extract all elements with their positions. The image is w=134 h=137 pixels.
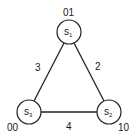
node-s3: s3 [17, 100, 41, 124]
node-s2: s2 [97, 100, 121, 124]
node-s3-code: 00 [7, 122, 19, 133]
edge-s1-s2-weight: 2 [95, 61, 101, 72]
node-s1-code: 01 [63, 7, 75, 18]
node-s1: s1 [57, 20, 81, 44]
edge-s1-s2 [74, 43, 104, 101]
node-s2-code: 10 [118, 122, 130, 133]
edge-s3-s2-weight: 4 [66, 121, 72, 132]
graph-diagram: s1 s2 s3 01 10 00 3 2 4 [0, 0, 134, 137]
edge-s1-s3-weight: 3 [35, 62, 41, 73]
